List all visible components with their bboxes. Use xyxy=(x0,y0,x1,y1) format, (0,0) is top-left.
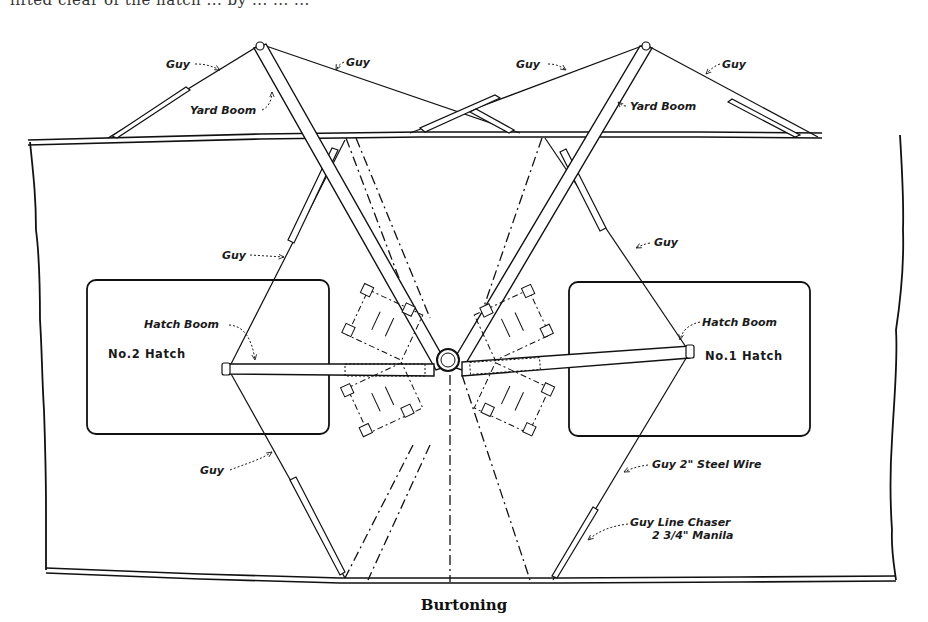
label-guy-mid-left: Guy xyxy=(222,249,247,262)
hatch-boom-right xyxy=(462,345,694,376)
label-guy-low-left: Guy xyxy=(200,464,225,477)
hatch-no2-label: No.2 Hatch xyxy=(108,347,186,361)
guys xyxy=(108,46,818,580)
label-guy-top-left-2: Guy xyxy=(346,56,371,69)
label-guy-steel-wire: Guy 2" Steel Wire xyxy=(652,458,762,471)
hatch-no1-label: No.1 Hatch xyxy=(705,349,783,363)
label-guy-line-chaser: Guy Line Chaser xyxy=(630,516,731,529)
guy-chasers xyxy=(112,87,800,578)
yard-boom-right xyxy=(450,42,652,370)
yard-boom-left xyxy=(254,42,448,370)
label-guy-top-right-1: Guy xyxy=(516,58,541,71)
label-hatch-boom-left: Hatch Boom xyxy=(144,318,219,331)
label-yard-boom-left: Yard Boom xyxy=(190,104,256,117)
label-hatch-boom-right: Hatch Boom xyxy=(702,316,777,329)
annotation-labels: Guy Guy Yard Boom Guy Guy Yard Boom Guy … xyxy=(144,56,777,542)
figure-caption: Burtoning xyxy=(0,596,928,614)
burtoning-diagram: No.2 Hatch No.1 Hatch xyxy=(0,0,928,622)
diagram-page: lifted clear of the hatch ... by ... ...… xyxy=(0,0,928,622)
label-guy-mid-right: Guy xyxy=(654,236,679,249)
mast xyxy=(437,349,459,371)
hatch-boom-left xyxy=(222,363,434,376)
hatch-no2: No.2 Hatch xyxy=(87,280,329,434)
label-yard-boom-right: Yard Boom xyxy=(630,100,696,113)
label-guy-line-chaser-manila: 2 3/4" Manila xyxy=(652,529,734,542)
label-guy-top-left-1: Guy xyxy=(166,58,191,71)
label-guy-top-right-2: Guy xyxy=(722,58,747,71)
